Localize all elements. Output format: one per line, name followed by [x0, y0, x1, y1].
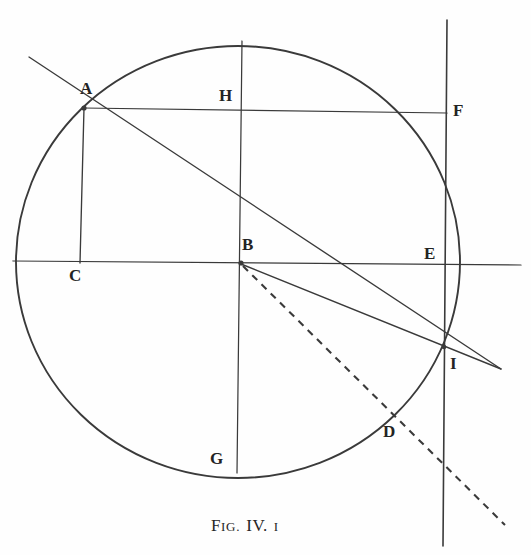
caption-number: IV.	[246, 516, 268, 535]
caption-subnumber: I	[274, 519, 279, 534]
tangent-line-through-a-and-i	[29, 57, 501, 369]
chord-a-to-f-line	[83, 108, 447, 113]
point-label-a: A	[80, 80, 92, 97]
point-label-f: F	[453, 102, 464, 119]
point-label-d: D	[383, 423, 395, 440]
point-label-c: C	[69, 267, 81, 284]
point-label-e: E	[424, 245, 436, 262]
point-label-i: I	[450, 355, 457, 372]
vertex-i-dot	[442, 345, 447, 350]
radius-b-to-i-line	[241, 264, 501, 369]
point-label-h: H	[219, 87, 232, 104]
vertical-diameter-line	[237, 41, 242, 473]
perpendicular-a-to-c-line	[80, 108, 84, 263]
dashed-line-b-through-d	[243, 266, 505, 525]
figure-caption: FIG.IV.I	[211, 516, 279, 536]
vertex-b-dot	[238, 260, 243, 265]
geometric-figure: A B C D E F G H I FIG.IV.I	[0, 0, 531, 555]
caption-fig-prefix-small: IG.	[221, 519, 240, 534]
vertex-a-dot	[81, 105, 86, 110]
caption-fig-prefix-big: F	[211, 516, 221, 535]
point-label-g: G	[210, 450, 223, 467]
point-label-b: B	[242, 236, 254, 253]
